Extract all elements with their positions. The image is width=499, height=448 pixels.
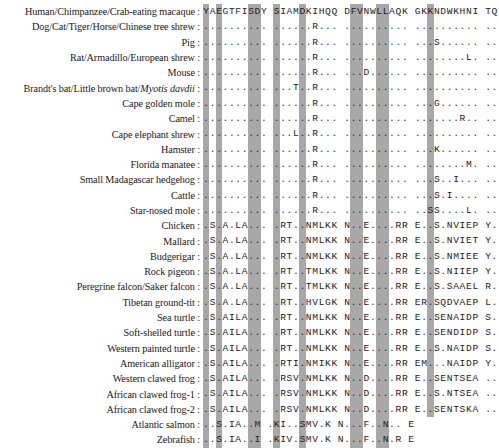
species-label: American alligator : [0,356,203,371]
species-name: African clawed frog-2 [106,404,194,415]
sequence-characters: .......... ......R... .......... ...K...… [203,142,499,157]
sequence-identity-dot: . [491,157,497,172]
label-separator: : [197,358,200,369]
label-separator: : [197,83,200,94]
species-label: African clawed frog-2 : [0,402,203,417]
species-name: Atlantic salmon [132,419,195,430]
label-separator: : [197,144,200,155]
sequence-characters: .S.AILA... .RT..NMLKK N..E....RR E..SEND… [203,325,499,340]
alignment-table: Human/Chimpanzee/Crab-eating macaque :YA… [0,4,499,448]
species-label: Small Madagascar hedgehog : [0,172,203,187]
label-separator: : [197,67,200,78]
species-label: Rat/Armadillo/European shrew : [0,50,203,65]
sequence-row: .S.A.LA... .RT..NMLKK N..E....RR E..S.NV… [203,218,499,233]
alignment-row: Camel :.......... ......R... .......... … [0,111,499,126]
sequence-characters: .S.AILA... .RSV.NMLKK N..D....RR E..S.NT… [203,386,499,401]
sequence-row: .......... ......R... .......... .......… [203,157,499,172]
alignment-row: Cattle :.......... ......R... ..........… [0,188,499,203]
alignment-row: Star-nosed mole :.......... ......R... .… [0,203,499,218]
alignment-row: Rat/Armadillo/European shrew :..........… [0,50,499,65]
alignment-row: African clawed frog-2 :.S.AILA... .RSV.N… [0,402,499,417]
alignment-row: Tibetan ground-tit :.S.A.LA... .RT..HVLG… [0,295,499,310]
alignment-rows: Human/Chimpanzee/Crab-eating macaque :YA… [0,4,499,448]
sequence-row: YAEGTFISDY SIAMDKIHQQ DFVNWLLAQK GKKNDWK… [203,4,499,19]
alignment-row: Sea turtle :.S.AILA... .RT..NMLKK N..E..… [0,310,499,325]
alignment-row: Brandt's bat/Little brown bat/Myotis dav… [0,80,499,95]
species-name: Pig [182,37,195,48]
alignment-row: Hamster :.......... ......R... .........… [0,142,499,157]
species-label: Zebrafish : [0,432,203,447]
sequence-identity-dot: . [491,402,497,417]
sequence-identity-dot: . [491,96,497,111]
label-separator: : [197,236,200,247]
species-label: Cattle : [0,188,203,203]
sequence-characters: .......... ......R... .......... .......… [203,19,499,34]
species-label: Hamster : [0,142,203,157]
sequence-characters: .......... ......R... .......... ...S...… [203,35,499,50]
sequence-characters: .......... ......R... .......... ...G...… [203,96,499,111]
sequence-characters: .......... ...L..R... .......... .......… [203,126,499,141]
species-label: Western painted turtle : [0,341,203,356]
species-name: Florida manatee [130,159,194,170]
species-label: Dog/Cat/Tiger/Horse/Chinese tree shrew : [0,19,203,34]
label-separator: : [197,205,200,216]
species-scientific-name: Myotis davdii [140,83,194,94]
sequence-row: ..S.IA..I .KIV.SMV.K N...F..N.R E [203,432,499,447]
species-name: Cape golden mole [122,98,195,109]
sequence-characters: .......... ......R... ...D...... .......… [203,65,499,80]
sequence-row: .......... ......R... .......... ...S.I.… [203,188,499,203]
label-separator: : [197,6,200,17]
sequence-row: .S.AILA... .RT..NMLKK N..E....RR E..S.NA… [203,341,499,356]
sequence-characters: .S.AILA... .RTI.NMIKK N..E....RR EM...NA… [203,356,499,371]
species-label: Mallard : [0,233,203,248]
sequence-residue: E [408,417,414,432]
label-separator: : [197,419,200,430]
sequence-identity-dot: . [491,295,497,310]
sequence-residue: E [408,432,414,447]
alignment-row: Dog/Cat/Tiger/Horse/Chinese tree shrew :… [0,19,499,34]
species-label: Camel : [0,111,203,126]
label-separator: : [197,37,200,48]
sequence-identity-dot: . [491,325,497,340]
sequence-row: .......... ......R... ...D...... .......… [203,65,499,80]
alignment-row: Western painted turtle :.S.AILA... .RT..… [0,341,499,356]
sequence-identity-dot: . [491,264,497,279]
label-separator: : [197,113,200,124]
sequence-identity-dot: . [491,279,497,294]
sequence-characters: .S.A.LA... .RT..NMLKK N..E....RR E..S.NV… [203,218,499,233]
label-separator: : [197,159,200,170]
species-label: Chicken : [0,218,203,233]
sequence-identity-dot: . [491,111,497,126]
species-name: Tibetan ground-tit [123,297,195,308]
sequence-identity-dot: . [491,341,497,356]
sequence-characters: .S.AILA... .RT..NMLKK N..E....RR E..SENA… [203,310,499,325]
label-separator: : [197,327,200,338]
alignment-row: American alligator :.S.AILA... .RTI.NMIK… [0,356,499,371]
sequence-identity-dot: . [491,50,497,65]
sequence-characters: .S.A.LA... .RT..TMLKK N..E....RR E..S.NI… [203,264,499,279]
sequence-row: .......... ......R... .......... ...K...… [203,142,499,157]
species-name: Mouse [168,67,195,78]
label-separator: : [197,98,200,109]
sequence-row: .S.AILA... .RSV.NMLKK N..D....RR E..SENT… [203,371,499,386]
species-name: Rat/Armadillo/European shrew [70,52,195,63]
species-label: Cape elephant shrew : [0,126,203,141]
sequence-identity-dot: . [491,126,497,141]
label-separator: : [197,389,200,400]
sequence-characters: ..S.IA..I .KIV.SMV.K N...F..N.R E [203,432,499,447]
alignment-row: Human/Chimpanzee/Crab-eating macaque :YA… [0,4,499,19]
label-separator: : [197,190,200,201]
alignment-row: Cape golden mole :.......... ......R... … [0,96,499,111]
label-separator: : [197,312,200,323]
label-separator: : [197,251,200,262]
species-label: Florida manatee : [0,157,203,172]
alignment-row: Mouse :.......... ......R... ...D...... … [0,65,499,80]
species-label: Rock pigeon : [0,264,203,279]
sequence-characters: .S.A.LA... .RT..NMLKK N..E....RR E..S.NM… [203,249,499,264]
sequence-characters: .S.AILA... .RT..NMLKK N..E....RR E..S.NA… [203,341,499,356]
species-name: Mallard [163,236,195,247]
species-label: Western clawed frog : [0,371,203,386]
species-name: Peregrine falcon/Saker falcon [77,281,195,292]
sequence-identity-dot: . [491,371,497,386]
sequence-row: .......... ......R... .......... .......… [203,19,499,34]
